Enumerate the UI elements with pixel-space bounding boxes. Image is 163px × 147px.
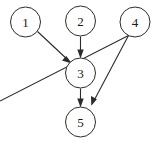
edge-3-to-5 (77, 89, 83, 108)
dag-diagram: 1 2 4 3 5 (0, 0, 163, 147)
dag-canvas: 1 2 4 3 5 (0, 0, 163, 147)
node-3[interactable]: 3 (66, 58, 96, 88)
node-2[interactable]: 2 (66, 6, 96, 36)
node-4-label: 4 (132, 15, 139, 30)
node-group: 1 2 4 3 5 (11, 6, 151, 137)
edge-1-to-3-line (38, 32, 69, 61)
edge-4-to-5-line (0, 36, 129, 102)
node-5-label: 5 (77, 115, 84, 130)
node-5[interactable]: 5 (66, 107, 96, 137)
edge-2-to-3 (77, 37, 83, 59)
node-1[interactable]: 1 (11, 7, 41, 37)
node-3-label: 3 (77, 66, 84, 81)
edge-2-to-3-arrowhead (77, 50, 83, 59)
node-4[interactable]: 4 (120, 7, 150, 37)
edge-4-to-5-line-seg (94, 36, 129, 102)
edge-1-to-3 (38, 32, 72, 64)
edge-4-to-5 (0, 36, 129, 106)
edge-3-to-5-arrowhead (77, 99, 83, 108)
edge-group (0, 32, 129, 108)
node-2-label: 2 (77, 14, 84, 29)
node-1-label: 1 (22, 15, 29, 30)
